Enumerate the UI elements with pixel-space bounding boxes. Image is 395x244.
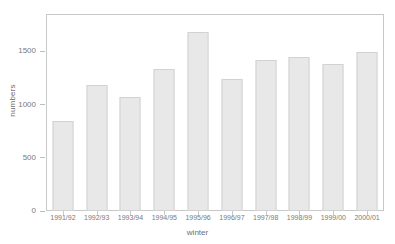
bar[interactable] xyxy=(289,57,310,211)
bar-slot xyxy=(46,14,80,211)
y-axis-tick-label: 1500 xyxy=(0,46,36,55)
x-axis-tick-label: 1999/00 xyxy=(316,213,350,223)
y-axis-tick-mark xyxy=(40,51,45,52)
bar-slot xyxy=(283,14,317,211)
y-axis-tick-mark xyxy=(40,211,45,212)
bar-slot xyxy=(114,14,148,211)
x-axis-tick-label: 1997/98 xyxy=(249,213,283,223)
bar-slot xyxy=(350,14,384,211)
bar[interactable] xyxy=(154,69,175,211)
x-axis-tick-label: 2000/01 xyxy=(350,213,384,223)
bar[interactable] xyxy=(255,60,276,211)
x-axis-title: winter xyxy=(0,228,395,237)
x-axis-tick-label: 1991/92 xyxy=(46,213,80,223)
bar[interactable] xyxy=(120,97,141,211)
y-axis-tick-label: 0 xyxy=(0,206,36,215)
bar[interactable] xyxy=(323,64,344,211)
bar[interactable] xyxy=(188,32,209,211)
bar[interactable] xyxy=(86,85,107,211)
bar-chart: numbers 050010001500 1991/921992/931993/… xyxy=(0,0,395,244)
bars-layer xyxy=(46,14,384,211)
x-axis-tick-label: 1994/95 xyxy=(147,213,181,223)
x-axis-tick-label: 1996/97 xyxy=(215,213,249,223)
bar-slot xyxy=(215,14,249,211)
bar-slot xyxy=(249,14,283,211)
y-axis-tick-label: 500 xyxy=(0,153,36,162)
x-axis-tick-label: 1993/94 xyxy=(114,213,148,223)
y-axis-tick-mark xyxy=(40,157,45,158)
x-axis-tick-label: 1995/96 xyxy=(181,213,215,223)
bar-slot xyxy=(147,14,181,211)
bar-slot xyxy=(316,14,350,211)
x-axis-tick-label: 1998/99 xyxy=(283,213,317,223)
bar[interactable] xyxy=(52,121,73,212)
bar-slot xyxy=(80,14,114,211)
y-axis-tick-label: 1000 xyxy=(0,100,36,109)
bar[interactable] xyxy=(357,52,378,211)
x-axis-tick-label: 1992/93 xyxy=(80,213,114,223)
bar-slot xyxy=(181,14,215,211)
x-axis-tick-labels: 1991/921992/931993/941994/951995/961996/… xyxy=(46,213,384,227)
bar[interactable] xyxy=(221,79,242,211)
y-axis-tick-mark xyxy=(40,104,45,105)
